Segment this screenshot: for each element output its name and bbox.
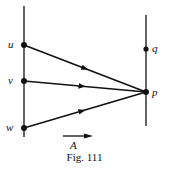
figure-caption: Fig. 111	[0, 152, 169, 163]
label-u: u	[8, 39, 14, 50]
label-p: p	[152, 87, 158, 98]
ray-v-to-p	[24, 81, 146, 92]
label-w: w	[6, 122, 13, 133]
diagram-canvas	[0, 0, 169, 169]
figure-111: u v w q p A Fig. 111	[0, 0, 169, 169]
point-u	[21, 42, 27, 48]
label-v: v	[8, 75, 13, 86]
point-q	[143, 46, 148, 51]
point-p	[143, 89, 149, 95]
direction-arrow-A	[63, 134, 93, 139]
point-v	[21, 78, 27, 84]
point-w	[21, 125, 27, 131]
label-q: q	[152, 43, 158, 54]
ray-w-to-p	[24, 92, 146, 128]
label-A: A	[70, 140, 77, 151]
ray-u-to-p	[24, 45, 146, 92]
